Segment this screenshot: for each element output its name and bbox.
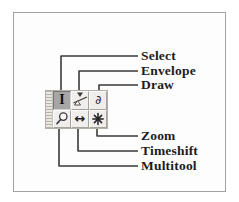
label-timeshift: Timeshift bbox=[141, 143, 198, 159]
label-multitool: Multitool bbox=[141, 158, 197, 174]
envelope-handles-icon bbox=[72, 92, 88, 108]
selection-tool-button[interactable]: I bbox=[53, 91, 71, 110]
left-right-arrow-icon: ↔ bbox=[75, 112, 86, 125]
pencil-icon: ∂ bbox=[95, 94, 101, 106]
toolbar-grip-handle[interactable] bbox=[46, 91, 53, 128]
figure-canvas: I ∂ ↔ bbox=[0, 0, 239, 202]
timeshift-tool-button[interactable]: ↔ bbox=[71, 110, 89, 129]
tools-toolbar: I ∂ ↔ bbox=[45, 90, 108, 129]
draw-tool-button[interactable]: ∂ bbox=[89, 91, 107, 110]
envelope-tool-button[interactable] bbox=[71, 91, 89, 110]
label-select: Select bbox=[141, 48, 176, 64]
label-zoom: Zoom bbox=[141, 128, 176, 144]
asterisk-star-icon bbox=[90, 111, 106, 127]
i-beam-cursor-icon: I bbox=[59, 93, 64, 107]
zoom-tool-button[interactable] bbox=[53, 110, 71, 129]
toolbar-button-grid: I ∂ ↔ bbox=[53, 91, 107, 128]
magnifier-icon bbox=[54, 111, 70, 127]
label-draw: Draw bbox=[141, 77, 174, 93]
multitool-button[interactable] bbox=[89, 110, 107, 129]
